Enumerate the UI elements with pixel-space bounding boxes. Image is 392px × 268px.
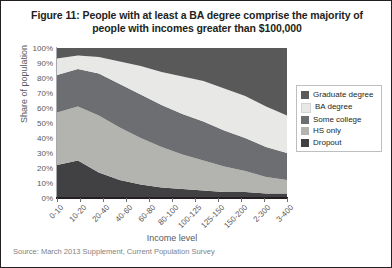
legend-swatch-icon: [301, 127, 309, 135]
x-axis-tickmark: [149, 198, 150, 202]
x-axis-tickmark: [172, 198, 173, 202]
x-axis-tickmark: [57, 198, 58, 202]
legend-item-label: Some college: [313, 115, 361, 125]
chart-legend: Graduate degreeBA degreeSome collegeHS o…: [296, 85, 382, 152]
y-axis-ticks: 100%90%80%70%60%50%40%30%20%10%0%: [15, 42, 53, 202]
x-axis-label: Income level: [57, 233, 287, 243]
legend-swatch-icon: [301, 91, 309, 99]
figure-container: Figure 11: People with at least a BA deg…: [0, 0, 392, 268]
legend-item[interactable]: Dropout: [301, 138, 377, 148]
x-axis-tick-labels: 0-1010-2020-4040-6060-8080-100100-125125…: [57, 203, 297, 235]
y-axis-tick-label: 70%: [15, 89, 53, 98]
legend-item[interactable]: Some college: [301, 115, 377, 125]
legend-item[interactable]: BA degree: [301, 102, 377, 113]
y-axis-tick-label: 0%: [15, 194, 53, 203]
x-axis-tickmark: [80, 198, 81, 202]
legend-swatch-icon: [301, 103, 311, 113]
stacked-area-svg: [57, 48, 287, 198]
y-axis-tick-label: 40%: [15, 134, 53, 143]
legend-item-label: Dropout: [313, 138, 341, 148]
legend-item-label: Graduate degree: [313, 90, 374, 100]
y-axis-tick-label: 20%: [15, 164, 53, 173]
legend-item-label: BA degree: [315, 102, 352, 112]
x-axis-tickmark: [218, 198, 219, 202]
x-axis-tickmark: [126, 198, 127, 202]
legend-swatch-icon: [301, 139, 309, 147]
legend-item[interactable]: HS only: [301, 126, 377, 136]
y-axis-tick-label: 30%: [15, 149, 53, 158]
y-axis-tick-label: 100%: [15, 44, 53, 53]
y-axis-tick-label: 50%: [15, 119, 53, 128]
legend-item-label: HS only: [313, 126, 341, 136]
y-axis-tick-label: 60%: [15, 104, 53, 113]
plot-area: [57, 48, 287, 198]
x-axis-tickmark: [103, 198, 104, 202]
x-axis-tickmark: [264, 198, 265, 202]
figure-title: Figure 11: People with at least a BA deg…: [19, 9, 375, 35]
x-axis-tickmark: [195, 198, 196, 202]
y-axis-tick-label: 80%: [15, 74, 53, 83]
x-axis-tickmark: [287, 198, 288, 202]
y-axis-tick-label: 10%: [15, 179, 53, 188]
y-axis-tick-label: 90%: [15, 59, 53, 68]
y-axis-line: [56, 47, 57, 198]
legend-swatch-icon: [301, 116, 309, 124]
source-note: Source: March 2013 Supplement, Current P…: [13, 247, 215, 256]
x-axis-tickmark: [241, 198, 242, 202]
legend-item[interactable]: Graduate degree: [301, 90, 377, 100]
